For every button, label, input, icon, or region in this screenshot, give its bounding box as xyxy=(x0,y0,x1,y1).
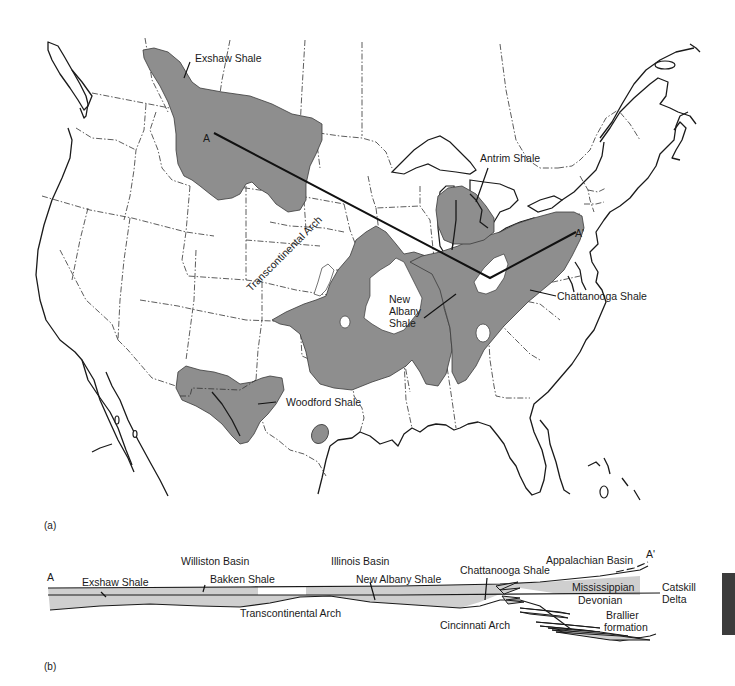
baja-outer xyxy=(92,444,112,452)
illinois-basin-shale-region xyxy=(272,226,452,390)
brallier-label-2: formation xyxy=(604,621,648,633)
island xyxy=(133,431,137,438)
vancouver-island xyxy=(48,42,92,110)
exshaw-shale-xs-label: Exshaw Shale xyxy=(82,576,149,588)
devonian-label: Devonian xyxy=(578,594,623,606)
illinois-basin-label: Illinois Basin xyxy=(331,555,390,567)
island xyxy=(115,416,119,424)
antrim-shale-label: Antrim Shale xyxy=(480,152,540,164)
xs-end-label: A' xyxy=(646,548,655,560)
exshaw-shale-region xyxy=(143,48,322,212)
brallier-label-1: Brallier xyxy=(606,609,639,621)
woodford-shale-region xyxy=(176,366,284,444)
island xyxy=(600,486,608,498)
page-edge-tab xyxy=(722,573,735,635)
small-shale-patch xyxy=(308,421,332,446)
florida-coast xyxy=(540,420,570,494)
woodford-shale-label: Woodford Shale xyxy=(286,396,361,408)
anticosti-island xyxy=(655,61,675,69)
chattanooga-shale-xs-label: Chattanooga Shale xyxy=(460,564,550,576)
baja-coast xyxy=(82,360,168,496)
catskill-label-1: Catskill xyxy=(662,581,696,593)
section-start-label: A xyxy=(203,132,210,144)
bakken-shale-xs-label: Bakken Shale xyxy=(210,573,275,585)
map-panel: Exshaw Shale Antrim Shale Chattanooga Sh… xyxy=(36,38,700,500)
west-coastline xyxy=(36,128,132,465)
gulf-st-lawrence xyxy=(600,48,696,142)
new-albany-shale-xs-label: New Albany Shale xyxy=(356,573,441,585)
new-albany-label-1: New xyxy=(389,293,410,305)
lake-superior xyxy=(392,136,476,174)
figure-canvas: Exshaw Shale Antrim Shale Chattanooga Sh… xyxy=(0,0,735,686)
new-albany-label-2: Albany xyxy=(389,305,422,317)
transcontinental-arch-xs-label: Transcontinental Arch xyxy=(240,607,341,619)
appalachian-basin-label: Appalachian Basin xyxy=(546,554,633,566)
caribbean-islands xyxy=(588,458,640,500)
mississippian-label: Mississippian xyxy=(572,581,635,593)
transcontinental-arch-label: Transcontinental Arch xyxy=(244,213,324,293)
nova-scotia xyxy=(672,122,686,160)
missouri-hole xyxy=(340,316,350,328)
cross-section-panel: A A' Williston Basin Illinois Basin Appa… xyxy=(47,548,696,641)
panel-a-label: (a) xyxy=(44,520,56,531)
xs-start-label: A xyxy=(47,571,54,583)
st-lawrence-river xyxy=(562,142,604,200)
exshaw-shale-label: Exshaw Shale xyxy=(195,52,262,64)
cincinnati-arch-label: Cincinnati Arch xyxy=(440,619,510,631)
new-albany-label-3: Shale xyxy=(389,317,416,329)
catskill-label-2: Delta xyxy=(662,593,687,605)
tennessee-hole xyxy=(476,324,490,342)
panel-b-label: (b) xyxy=(44,661,56,672)
atlantic-coastline xyxy=(580,112,688,352)
williston-basin-label: Williston Basin xyxy=(181,555,249,567)
chattanooga-shale-label: Chattanooga Shale xyxy=(557,290,647,302)
section-end-label: A' xyxy=(575,227,584,239)
lake-ontario xyxy=(528,196,562,212)
